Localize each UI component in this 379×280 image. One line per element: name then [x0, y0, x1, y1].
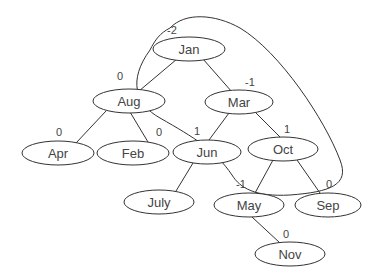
edge-aug-feb	[130, 112, 148, 142]
node-label: Sep	[316, 198, 339, 213]
node-oct[interactable]: Oct 1	[248, 123, 318, 161]
balance-factor-label: -1	[236, 178, 246, 190]
balance-factor-label: 0	[156, 126, 162, 138]
edge-may-nov	[252, 217, 280, 243]
edge-oct-sep	[297, 160, 320, 193]
balance-factor-label: -1	[245, 76, 255, 88]
edge-oct-may	[255, 160, 273, 193]
node-feb[interactable]: Feb 0	[97, 126, 169, 165]
node-label: July	[147, 195, 171, 210]
node-jun[interactable]: Jun 1	[173, 125, 241, 164]
edge-mar-jun	[209, 113, 229, 140]
balance-factor-label: 0	[117, 70, 123, 82]
balance-factor-label: 1	[284, 123, 290, 135]
balance-factor-label: 0	[326, 178, 332, 190]
balance-factor-label: 0	[283, 228, 289, 240]
node-label: Oct	[273, 142, 294, 157]
edge-jan-mar	[203, 59, 232, 92]
node-label: Jan	[179, 42, 200, 57]
node-label: Apr	[48, 146, 69, 161]
node-label: Feb	[122, 146, 144, 161]
node-apr[interactable]: Apr 0	[22, 126, 94, 165]
node-label: May	[237, 198, 262, 213]
edge-aug-apr	[76, 111, 106, 143]
tree-svg: Jan -2 Aug 0 Mar -1 Apr 0 Feb 0 Jun 1	[0, 0, 379, 280]
node-label: Jun	[197, 145, 218, 160]
balance-factor-label: 1	[194, 125, 200, 137]
node-sep[interactable]: Sep 0	[295, 178, 361, 217]
node-label: Mar	[228, 95, 251, 110]
balance-factor-label: -2	[167, 24, 177, 36]
edge-mar-oct	[256, 113, 281, 138]
node-jan[interactable]: Jan -2	[153, 24, 225, 61]
edge-jun-july	[176, 163, 193, 191]
node-aug[interactable]: Aug 0	[93, 70, 165, 113]
node-label: Aug	[117, 94, 140, 109]
edge-jan-aug	[139, 59, 177, 91]
node-july[interactable]: July	[124, 190, 194, 214]
node-may[interactable]: May -1	[214, 178, 284, 217]
node-label: Nov	[278, 247, 302, 262]
node-nov[interactable]: Nov 0	[255, 228, 325, 266]
node-mar[interactable]: Mar -1	[205, 76, 273, 114]
balance-factor-label: 0	[56, 126, 62, 138]
tree-diagram: Jan -2 Aug 0 Mar -1 Apr 0 Feb 0 Jun 1	[0, 0, 379, 280]
